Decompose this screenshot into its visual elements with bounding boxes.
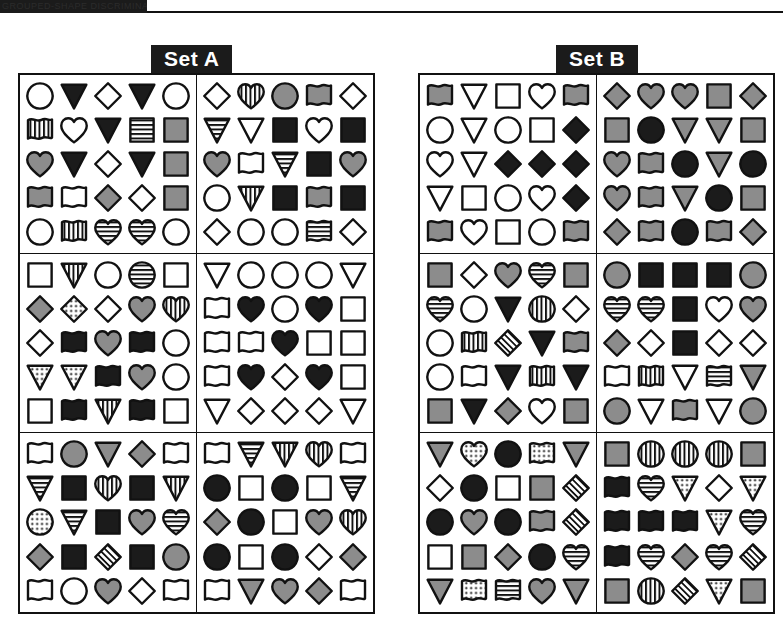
shape-cell-flag-gray (23, 181, 57, 215)
shape-cell-triangle-down-vstripe (57, 258, 91, 292)
shape-cell-circle-white (423, 113, 457, 147)
shape-cell-heart-gray (268, 574, 302, 608)
shape-cell-circle-white (268, 258, 302, 292)
shape-cell-diamond-black (559, 181, 593, 215)
shape-cell-triangle-down-gray (668, 113, 702, 147)
shape-cell-triangle-down-hstripe (200, 113, 234, 147)
shape-cell-triangle-down-dots (23, 360, 57, 394)
shape-cell-square-gray (600, 574, 634, 608)
set-b-block-5 (420, 433, 597, 612)
set-a-panel (18, 73, 375, 614)
shape-cell-square-gray (159, 113, 193, 147)
shape-cell-flag-vstripe (634, 360, 668, 394)
shape-cell-diamond-white (336, 215, 370, 249)
shape-cell-triangle-down-white (234, 113, 268, 147)
shape-cell-triangle-down-black (91, 113, 125, 147)
shape-cell-heart-hstripe (634, 292, 668, 326)
shape-cell-flag-gray (559, 79, 593, 113)
shape-cell-flag-gray (559, 326, 593, 360)
set-b-block-6 (597, 433, 774, 612)
shape-cell-triangle-down-hstripe (57, 505, 91, 539)
shape-cell-triangle-down-gray (736, 360, 770, 394)
shape-cell-heart-hstripe (634, 540, 668, 574)
shape-cell-circle-black (457, 471, 491, 505)
shape-cell-heart-vstripe (159, 292, 193, 326)
shape-cell-flag-black (668, 505, 702, 539)
shape-cell-diamond-white (457, 258, 491, 292)
shape-cell-heart-white (702, 292, 736, 326)
shape-cell-flag-gray (668, 394, 702, 428)
shape-cell-diamond-white (200, 79, 234, 113)
shape-cell-square-black (668, 326, 702, 360)
shape-cell-flag-white (234, 326, 268, 360)
shape-cell-circle-white (491, 113, 525, 147)
shape-cell-circle-white (159, 79, 193, 113)
shape-cell-flag-black (634, 505, 668, 539)
shape-cell-triangle-down-black (491, 292, 525, 326)
shape-cell-heart-black (234, 292, 268, 326)
shape-cell-diamond-gray (23, 540, 57, 574)
shape-cell-flag-black (57, 326, 91, 360)
shape-cell-diamond-gray (600, 79, 634, 113)
set-a-block-6 (197, 433, 374, 612)
shape-cell-heart-gray (125, 292, 159, 326)
shape-cell-circle-white (200, 181, 234, 215)
shape-cell-diamond-white (302, 540, 336, 574)
shape-cell-square-gray (600, 437, 634, 471)
shape-cell-heart-gray (91, 326, 125, 360)
shape-cell-triangle-down-gray (668, 181, 702, 215)
shape-cell-circle-black (491, 505, 525, 539)
shape-cell-square-black (91, 505, 125, 539)
shape-cell-flag-vstripe (525, 360, 559, 394)
shape-cell-diamond-black (491, 147, 525, 181)
shape-cell-square-black (336, 181, 370, 215)
shape-cell-square-gray (159, 147, 193, 181)
shape-cell-circle-white (23, 215, 57, 249)
shape-cell-circle-white (159, 215, 193, 249)
shape-cell-circle-black (200, 471, 234, 505)
shape-cell-circle-white (91, 258, 125, 292)
shape-cell-heart-white (57, 113, 91, 147)
shape-cell-heart-white (525, 79, 559, 113)
shape-cell-diamond-gray (302, 574, 336, 608)
shape-cell-heart-hstripe (600, 292, 634, 326)
set-a-label: Set A (151, 45, 232, 73)
shape-cell-circle-gray (600, 258, 634, 292)
shape-cell-flag-gray (702, 215, 736, 249)
shape-cell-circle-white (302, 258, 336, 292)
shape-cell-triangle-down-black (125, 147, 159, 181)
shape-cell-triangle-down-vstripe (268, 437, 302, 471)
shape-cell-triangle-down-white (457, 113, 491, 147)
shape-cell-heart-gray (457, 505, 491, 539)
shape-cell-triangle-down-white (702, 394, 736, 428)
set-a-block-5 (20, 433, 197, 612)
shape-cell-heart-white (525, 181, 559, 215)
shape-cell-diamond-black (559, 113, 593, 147)
shape-cell-square-black (125, 540, 159, 574)
shape-cell-flag-white (336, 574, 370, 608)
shape-cell-flag-dots (457, 574, 491, 608)
shape-cell-triangle-down-white (423, 181, 457, 215)
shape-cell-triangle-down-hstripe (23, 471, 57, 505)
shape-cell-flag-gray (423, 215, 457, 249)
shape-cell-square-black (668, 258, 702, 292)
shape-cell-diamond-white (736, 326, 770, 360)
shape-cell-flag-gray (559, 215, 593, 249)
top-black-bar: GROUPED-SHAPE DISCRIMINATION (0, 0, 147, 13)
set-b-block-1 (420, 75, 597, 254)
shape-cell-diamond-gray (200, 505, 234, 539)
shape-cell-flag-white (200, 360, 234, 394)
shape-cell-heart-gray (736, 292, 770, 326)
shape-cell-diamond-white (702, 471, 736, 505)
shape-cell-circle-vstripe (634, 574, 668, 608)
shape-cell-heart-white (302, 113, 336, 147)
shape-cell-diamond-gray (736, 215, 770, 249)
shape-cell-diamond-hatch (91, 540, 125, 574)
shape-cell-heart-gray (525, 574, 559, 608)
shape-cell-circle-vstripe (668, 437, 702, 471)
shape-cell-square-gray (600, 113, 634, 147)
shape-cell-diamond-gray (23, 292, 57, 326)
shape-cell-flag-black (600, 505, 634, 539)
shape-cell-heart-white (457, 215, 491, 249)
shape-cell-triangle-down-vstripe (234, 181, 268, 215)
